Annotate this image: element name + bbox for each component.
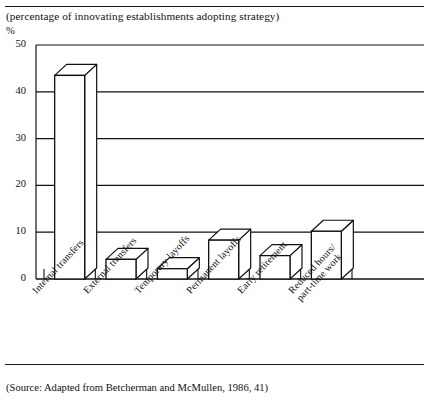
y-tick-label: 30 xyxy=(4,133,26,144)
y-tick-label: 40 xyxy=(4,86,26,97)
source-note: (Source: Adapted from Betcherman and McM… xyxy=(6,382,268,393)
y-tick-label: 20 xyxy=(4,179,26,190)
figure-container: (percentage of innovating establishments… xyxy=(0,0,429,407)
y-tick-label: 10 xyxy=(4,226,26,237)
y-tick-label: 50 xyxy=(4,39,26,50)
figure-bottom-rule xyxy=(5,364,424,365)
x-axis-category-labels: Internal transfersExternal transfersTemp… xyxy=(0,282,429,362)
